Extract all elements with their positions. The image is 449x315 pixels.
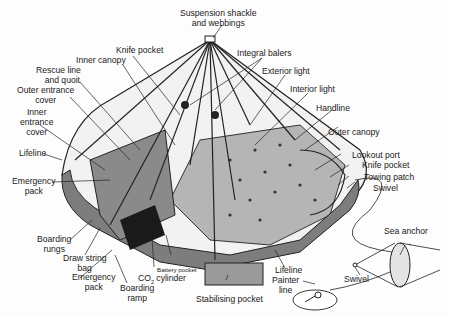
label-integral-balers: Integral balers	[237, 48, 291, 58]
label-emergency-pack-top: Emergencypack	[12, 176, 55, 196]
label-exterior-light: Exterior light	[262, 66, 310, 76]
label-inner-canopy: Inner canopy	[76, 55, 126, 65]
label-suspension-shackle: Suspension shackleand webbings	[180, 8, 256, 28]
label-swivel-bottom: Swivel	[344, 274, 369, 284]
label-outer-entrance-cover: Outer entrancecover	[17, 85, 74, 105]
label-emergency-pack-bottom: Emergencypack	[72, 272, 115, 292]
label-lifeline-bottom: Lifeline	[275, 265, 302, 275]
label-outer-canopy: Outer canopy	[328, 127, 380, 137]
label-rescue-line: Rescue lineand quoit	[36, 65, 80, 85]
label-towing-patch: Towing patch	[364, 172, 414, 182]
label-handline: Handline	[316, 103, 350, 113]
label-boarding-ramp: Boardingramp	[120, 283, 154, 303]
label-lifeline-left: Lifeline	[19, 148, 46, 158]
label-draw-string-bag: Draw stringbag	[63, 253, 106, 273]
label-stabilising-pocket: Stabilising pocket	[196, 294, 263, 304]
label-sea-anchor: Sea anchor	[384, 226, 428, 236]
label-knife-pocket-top: Knife pocket	[116, 45, 163, 55]
liferaft-diagram: Suspension shackleand webbings Knife poc…	[0, 0, 449, 315]
label-painter-line: Painterline	[272, 275, 299, 295]
label-swivel-top: Swivel	[373, 183, 398, 193]
label-inner-entrance-cover: Innerentrancecover	[20, 107, 53, 137]
label-knife-pocket-right: Knife pocket	[362, 160, 409, 170]
label-lookout-port: Lookout port	[352, 150, 400, 160]
label-boarding-rungs: Boardingrungs	[37, 234, 71, 254]
label-interior-light: Interior light	[290, 84, 335, 94]
